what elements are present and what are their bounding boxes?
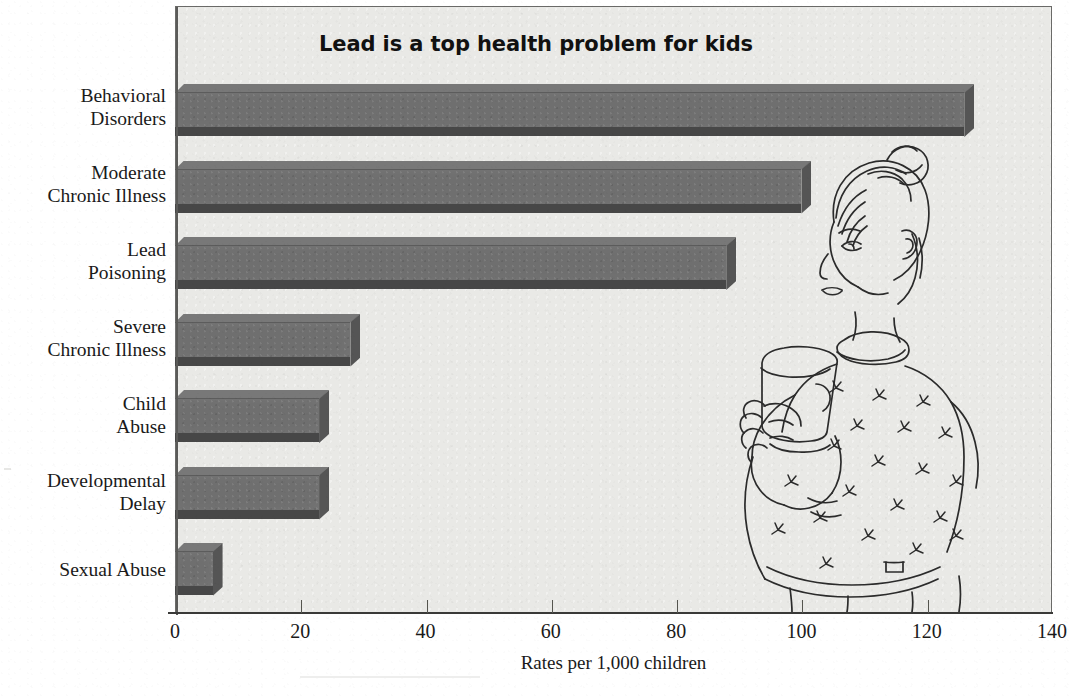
bar-front-face [175, 92, 964, 128]
category-label-child-abuse: Child Abuse [0, 392, 166, 438]
x-tick-label-40: 40 [416, 620, 436, 643]
x-tick-label-20: 20 [290, 620, 310, 643]
x-tick-label-80: 80 [666, 620, 686, 643]
category-label-line1: Behavioral [0, 84, 166, 107]
bar-side-face [964, 84, 974, 137]
x-tick-80 [677, 600, 678, 613]
bar-bottom-shadow [175, 510, 319, 519]
category-label-line1: Sexual Abuse [0, 558, 166, 581]
category-label-line1: Child [0, 392, 166, 415]
x-tick-100 [802, 600, 803, 613]
scan-artifact-bottom [300, 676, 480, 678]
bar-front-face [175, 398, 319, 434]
bar-side-face [726, 237, 736, 290]
bar-front-face [175, 475, 319, 511]
bar-side-face [213, 543, 223, 596]
category-label-line2: Chronic Illness [0, 338, 166, 361]
bar-behavioral-disorders [175, 84, 974, 137]
category-label-lead-poisoning: Lead Poisoning [0, 238, 166, 284]
bar-front-face [175, 245, 726, 281]
category-label-behavioral-disorders: Behavioral Disorders [0, 84, 166, 130]
bar-front-face [175, 322, 350, 358]
bar-bottom-shadow [175, 433, 319, 442]
bar-lead-poisoning [175, 237, 736, 290]
category-label-developmental-delay: Developmental Delay [0, 469, 166, 515]
bar-side-face [319, 390, 329, 443]
x-tick-label-60: 60 [541, 620, 561, 643]
bar-side-face [801, 161, 811, 214]
category-label-line2: Abuse [0, 415, 166, 438]
category-label-line1: Moderate [0, 161, 166, 184]
chart-title: Lead is a top health problem for kids [0, 32, 1072, 56]
category-label-line1: Lead [0, 238, 166, 261]
bar-developmental-delay [175, 467, 329, 520]
bar-child-abuse [175, 390, 329, 443]
category-label-sexual-abuse: Sexual Abuse [0, 558, 166, 581]
bar-front-face [175, 551, 213, 587]
x-axis-title: Rates per 1,000 children [175, 652, 1052, 674]
bar-bottom-shadow [175, 586, 213, 595]
y-axis-line [176, 7, 178, 615]
bar-severe-chronic-illness [175, 314, 360, 367]
category-label-line2: Chronic Illness [0, 184, 166, 207]
bar-bottom-shadow [175, 204, 801, 213]
x-tick-label-0: 0 [170, 620, 180, 643]
x-tick-40 [427, 600, 428, 613]
category-label-line1: Severe [0, 315, 166, 338]
category-label-moderate-chronic-illness: Moderate Chronic Illness [0, 161, 166, 207]
bar-bottom-shadow [175, 280, 726, 289]
category-label-line1: Developmental [0, 469, 166, 492]
category-label-line2: Delay [0, 492, 166, 515]
x-tick-label-140: 140 [1037, 620, 1067, 643]
x-tick-label-120: 120 [912, 620, 942, 643]
bar-bottom-shadow [175, 127, 964, 136]
x-tick-60 [552, 600, 553, 613]
bar-front-face [175, 169, 801, 205]
bar-moderate-chronic-illness [175, 161, 811, 214]
x-tick-120 [928, 600, 929, 613]
category-label-severe-chronic-illness: Severe Chronic Illness [0, 315, 166, 361]
bar-side-face [350, 314, 360, 367]
x-tick-label-100: 100 [786, 620, 816, 643]
x-tick-20 [301, 600, 302, 613]
bar-side-face [319, 467, 329, 520]
bar-sexual-abuse [175, 543, 223, 596]
category-label-line2: Disorders [0, 107, 166, 130]
category-label-line2: Poisoning [0, 261, 166, 284]
bar-bottom-shadow [175, 357, 350, 366]
